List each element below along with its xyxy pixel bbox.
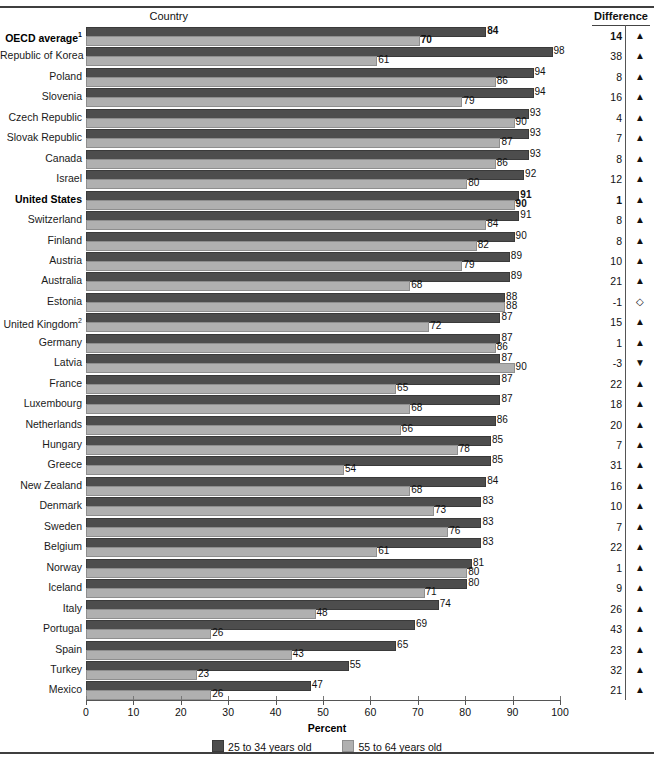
bar-value-young: 83 <box>482 517 493 526</box>
bar-old <box>86 384 396 394</box>
bar-group: 8772 <box>86 312 566 333</box>
difference-value: 23 <box>578 644 622 656</box>
bar-group: 8968 <box>86 271 566 292</box>
bar-old <box>86 527 448 537</box>
bar-old <box>86 425 401 435</box>
x-axis-tick-label: 100 <box>540 706 580 718</box>
bar-value-young: 87 <box>501 353 512 362</box>
chart-row: Latvia8790-3▼ <box>0 353 654 374</box>
bar-old <box>86 404 410 414</box>
difference-marker-up-icon: ▲ <box>630 71 650 82</box>
bar-value-young: 89 <box>511 251 522 260</box>
bar-old <box>86 609 316 619</box>
country-label: Poland <box>0 70 82 82</box>
difference-marker-up-icon: ▲ <box>630 316 650 327</box>
difference-value: 8 <box>578 235 622 247</box>
chart-row: Israel928012▲ <box>0 169 654 190</box>
country-label: France <box>0 377 82 389</box>
bar-group: 8468 <box>86 476 566 497</box>
bar-value-young: 83 <box>482 537 493 546</box>
x-axis-tick <box>86 700 87 705</box>
chart-row: Canada93868▲ <box>0 149 654 170</box>
country-label: Denmark <box>0 499 82 511</box>
bar-value-old: 72 <box>430 321 441 330</box>
bar-value-young: 89 <box>511 271 522 280</box>
bar-value-old: 90 <box>516 362 527 371</box>
bar-value-young: 85 <box>492 435 503 444</box>
country-label: Spain <box>0 643 82 655</box>
bar-old <box>86 588 425 598</box>
bar-group: 8786 <box>86 333 566 354</box>
country-label: Mexico <box>0 683 82 695</box>
difference-value: 9 <box>578 582 622 594</box>
bar-old <box>86 322 429 332</box>
difference-marker-up-icon: ▲ <box>630 562 650 573</box>
difference-marker-up-icon: ▲ <box>630 398 650 409</box>
bar-value-young: 87 <box>501 394 512 403</box>
difference-value: 26 <box>578 603 622 615</box>
bar-group: 8768 <box>86 394 566 415</box>
country-label: Estonia <box>0 295 82 307</box>
bar-group: 8666 <box>86 415 566 436</box>
bar-value-young: 87 <box>501 312 512 321</box>
country-label: Austria <box>0 254 82 266</box>
difference-value: -1 <box>578 296 622 308</box>
bar-group: 6543 <box>86 640 566 661</box>
difference-marker-up-icon: ▲ <box>630 91 650 102</box>
bar-old <box>86 159 496 169</box>
bar-value-old: 86 <box>497 158 508 167</box>
difference-marker-up-icon: ▲ <box>630 623 650 634</box>
country-label: Luxembourg <box>0 397 82 409</box>
x-axis-tick <box>228 700 229 705</box>
bar-value-old: 79 <box>463 260 474 269</box>
bar-value-young: 74 <box>440 599 451 608</box>
bar-value-old: 71 <box>426 587 437 596</box>
chart-row: Finland90828▲ <box>0 231 654 252</box>
legend-item-young: 25 to 34 years old <box>212 740 311 753</box>
bar-old <box>86 547 377 557</box>
bar-value-old: 26 <box>212 628 223 637</box>
difference-value: 10 <box>578 255 622 267</box>
bar-value-young: 69 <box>416 619 427 628</box>
difference-marker-up-icon: ▲ <box>630 132 650 143</box>
bar-old <box>86 690 211 700</box>
difference-value: 15 <box>578 316 622 328</box>
bar-value-old: 86 <box>497 76 508 85</box>
bar-value-young: 80 <box>468 578 479 587</box>
x-axis-gridtick <box>323 696 324 700</box>
difference-column-header: Difference <box>588 10 654 22</box>
chart-page: Country Difference OECD average1847014▲R… <box>0 0 654 758</box>
country-label: United Kingdom2 <box>0 315 82 330</box>
x-axis-tick-label: 80 <box>445 706 485 718</box>
difference-value: 7 <box>578 132 622 144</box>
bar-value-old: 68 <box>411 403 422 412</box>
bar-group: 7448 <box>86 599 566 620</box>
chart-row: France876522▲ <box>0 374 654 395</box>
legend-label-young: 25 to 34 years old <box>228 741 311 753</box>
x-axis-tick <box>323 700 324 705</box>
bar-value-young: 93 <box>530 108 541 117</box>
x-axis-tick <box>181 700 182 705</box>
bar-group: 5523 <box>86 660 566 681</box>
chart-row: Spain654323▲ <box>0 640 654 661</box>
country-label: Greece <box>0 458 82 470</box>
country-label: Czech Republic <box>0 111 82 123</box>
bar-group: 9387 <box>86 128 566 149</box>
bar-value-old: 61 <box>378 55 389 64</box>
bar-group: 9861 <box>86 46 566 67</box>
x-axis-gridtick <box>465 696 466 700</box>
bar-value-young: 91 <box>520 210 531 219</box>
difference-marker-up-icon: ▲ <box>630 255 650 266</box>
legend: 25 to 34 years old 55 to 64 years old <box>0 740 654 753</box>
difference-value: 1 <box>578 194 622 206</box>
chart-row: Portugal692643▲ <box>0 619 654 640</box>
bar-old <box>86 138 500 148</box>
country-label: Iceland <box>0 581 82 593</box>
country-column-header: Country <box>0 10 188 22</box>
difference-marker-up-icon: ▲ <box>630 439 650 450</box>
country-label: Canada <box>0 152 82 164</box>
country-label: New Zealand <box>0 479 82 491</box>
chart-row: Australia896821▲ <box>0 271 654 292</box>
bar-old <box>86 97 462 107</box>
x-axis-tick <box>560 700 561 705</box>
